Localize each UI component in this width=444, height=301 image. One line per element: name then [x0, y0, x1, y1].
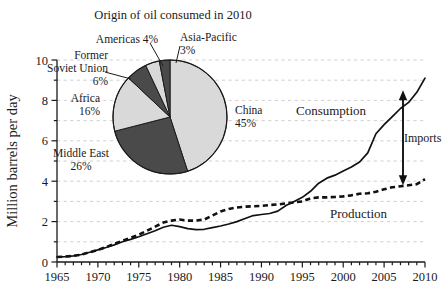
- pie-label-former-soviet-union: FormerSoviet Union6%: [22, 49, 108, 88]
- x-tick-label: 1980: [167, 270, 192, 284]
- x-tick-label: 1965: [45, 270, 70, 284]
- y-axis-title: Million barrels per day: [4, 94, 20, 228]
- y-tick-label: 0: [42, 256, 48, 270]
- pie-label-africa: Africa16%: [30, 92, 100, 118]
- pie-title: Origin of oil consumed in 2010: [88, 8, 258, 22]
- x-tick-label: 1985: [208, 270, 233, 284]
- production-label: Production: [330, 207, 420, 222]
- pie-label-china: China45%: [235, 104, 295, 130]
- x-tick-label: 1990: [249, 270, 274, 284]
- imports-arrow-head-up: [399, 90, 407, 100]
- pie-label-asia-pacific: Asia-Pacific3%: [180, 31, 266, 57]
- x-tick-label: 1995: [290, 270, 315, 284]
- imports-arrow-head-down: [399, 175, 407, 185]
- pie-label-middle-east: Middle East26%: [38, 147, 124, 173]
- x-tick-label: 1975: [126, 270, 151, 284]
- pie-chart: [113, 60, 227, 174]
- x-tick-label: 2000: [331, 270, 356, 284]
- pie-label-americas: Americas 4%: [82, 33, 172, 46]
- x-tick-label: 2010: [413, 270, 438, 284]
- y-tick-label: 4: [42, 175, 49, 189]
- y-tick-label: 2: [42, 215, 48, 229]
- consumption-label: Consumption: [296, 104, 392, 119]
- imports-label: Imports: [404, 132, 444, 145]
- x-tick-label: 1970: [85, 270, 110, 284]
- leader-line-former-soviet-union: [105, 72, 131, 79]
- x-tick-label: 2005: [372, 270, 397, 284]
